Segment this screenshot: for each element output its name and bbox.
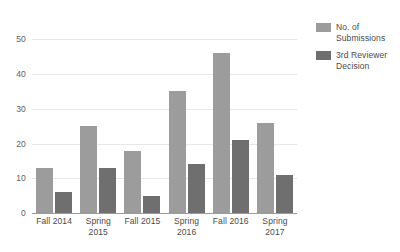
- y-axis-tick-label: 30: [16, 104, 26, 114]
- x-axis-tick-label: Fall 2014: [32, 216, 76, 238]
- bar: [232, 140, 249, 213]
- legend-swatch-icon: [316, 51, 331, 60]
- y-axis-tick-label: 10: [16, 173, 26, 183]
- bar: [188, 164, 205, 213]
- bar-group: [253, 22, 297, 213]
- x-axis-tick-label: Spring 2017: [253, 216, 297, 238]
- x-axis-tick-label: Spring 2015: [76, 216, 120, 238]
- legend: No. of Submissions3rd Reviewer Decision: [316, 22, 398, 78]
- bar-group: [209, 22, 253, 213]
- y-axis-tick-label: 20: [16, 139, 26, 149]
- legend-swatch-icon: [316, 23, 331, 32]
- bar: [80, 126, 97, 213]
- bar: [143, 196, 160, 213]
- y-axis-tick-label: 40: [16, 69, 26, 79]
- bar-group: [120, 22, 164, 213]
- x-axis-tick-label: Fall 2015: [120, 216, 164, 238]
- x-axis-tick-label: Spring 2016: [165, 216, 209, 238]
- bar-chart: 01020304050 Fall 2014Spring 2015Fall 201…: [0, 0, 400, 252]
- x-axis-line: [32, 213, 297, 214]
- bar: [169, 91, 186, 213]
- bar: [55, 192, 72, 213]
- x-axis-tick-labels: Fall 2014Spring 2015Fall 2015Spring 2016…: [32, 216, 297, 238]
- legend-label: 3rd Reviewer Decision: [336, 50, 387, 72]
- bar: [213, 53, 230, 213]
- bar: [257, 123, 274, 213]
- bar: [124, 151, 141, 214]
- bar: [36, 168, 53, 213]
- legend-entry[interactable]: No. of Submissions: [316, 22, 398, 44]
- bar-group: [76, 22, 120, 213]
- bars-layer: [32, 22, 297, 213]
- bar: [276, 175, 293, 213]
- y-axis-tick-label: 50: [16, 34, 26, 44]
- legend-entry[interactable]: 3rd Reviewer Decision: [316, 50, 398, 72]
- bar-group: [32, 22, 76, 213]
- plot-area: 01020304050: [32, 22, 297, 213]
- bar: [99, 168, 116, 213]
- x-axis-tick-label: Fall 2016: [209, 216, 253, 238]
- bar-group: [165, 22, 209, 213]
- y-axis-tick-label: 0: [21, 208, 26, 218]
- legend-label: No. of Submissions: [336, 22, 385, 44]
